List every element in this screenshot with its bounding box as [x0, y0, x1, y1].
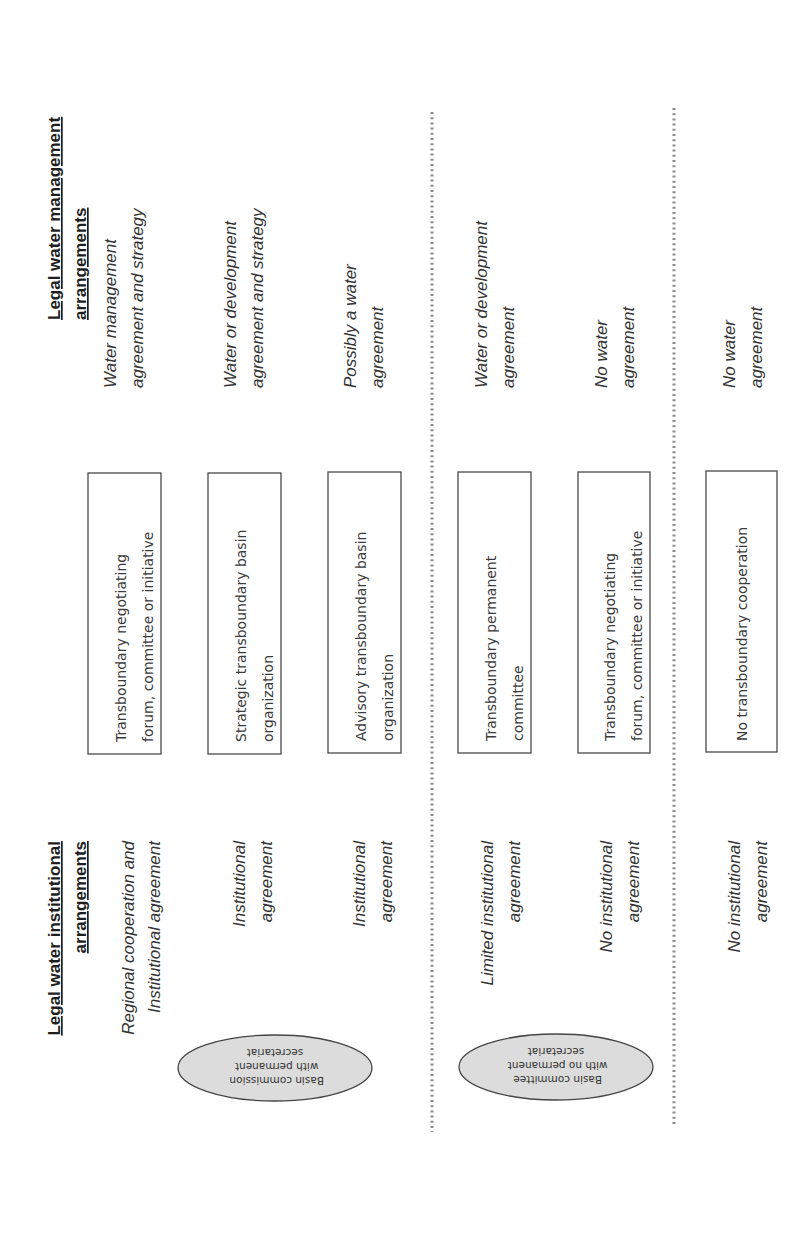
- group-no-cooperation: No water agreement No transboundary coop…: [706, 305, 777, 952]
- header-management: Legal water management arrangements: [45, 117, 90, 320]
- organization-text: committee: [510, 665, 526, 741]
- institutional-text: Institutional agreement: [145, 840, 164, 1013]
- organization-text: forum, committee or initiative: [140, 532, 156, 742]
- row: Water or development agreement and strat…: [208, 207, 281, 927]
- row: Possibly a water agreement Advisory tran…: [328, 263, 401, 927]
- institutional-text: agreement: [752, 840, 771, 923]
- management-text: agreement: [747, 305, 766, 388]
- management-text: agreement and strategy: [128, 207, 147, 388]
- organization-text: Strategic transboundary basin: [233, 530, 249, 742]
- management-text: No water: [592, 319, 611, 388]
- management-text: agreement: [368, 305, 387, 388]
- row: Water management agreement and strategy …: [88, 207, 164, 1035]
- institutional-text: Institutional: [350, 840, 369, 927]
- institutional-text: agreement: [377, 840, 396, 923]
- institutional-text: agreement: [505, 840, 524, 923]
- row: No water agreement No transboundary coop…: [706, 305, 777, 952]
- ellipse-line: Basin committee: [513, 1074, 602, 1086]
- ellipse-line: with permanent: [235, 1061, 318, 1073]
- institutional-text: agreement: [257, 840, 276, 923]
- row: No water agreement Transboundary negotia…: [578, 305, 650, 952]
- organization-text: organization: [380, 654, 396, 741]
- management-text: agreement and strategy: [248, 207, 267, 388]
- basin-commission-ellipse: Basin commission with permanent secretar…: [178, 1035, 372, 1101]
- header-institutional-line2: arrangements: [71, 841, 90, 953]
- diagram-canvas: Legal water management arrangements Lega…: [0, 0, 810, 1250]
- group-basin-committee: Water or development agreement Transboun…: [458, 220, 653, 1100]
- ellipse-line: Basin commission: [229, 1075, 324, 1087]
- organization-text: Advisory transboundary basin: [353, 532, 369, 741]
- organization-text: Transboundary negotiating: [113, 554, 129, 743]
- ellipse-line: with no permanent: [508, 1060, 608, 1072]
- organization-text: No transboundary cooperation: [734, 527, 750, 741]
- management-text: Water or development: [472, 220, 491, 388]
- row: Water or development agreement Transboun…: [458, 220, 531, 986]
- management-text: Water or development: [221, 220, 240, 388]
- institutional-text: No institutional: [725, 840, 744, 953]
- management-text: agreement: [619, 305, 638, 388]
- institutional-text: agreement: [624, 840, 643, 923]
- institutional-text: No institutional: [597, 840, 616, 953]
- institutional-text: Institutional: [230, 840, 249, 927]
- institutional-text: Regional cooperation and: [119, 840, 138, 1034]
- organization-text: organization: [260, 655, 276, 742]
- group-basin-commission: Water management agreement and strategy …: [88, 207, 401, 1101]
- basin-committee-ellipse: Basin committee with no permanent secret…: [459, 1034, 653, 1100]
- header-institutional-line1: Legal water institutional: [45, 841, 64, 1036]
- management-text: Possibly a water: [341, 263, 360, 388]
- institutional-text: Limited institutional: [478, 840, 497, 986]
- organization-text: Transboundary negotiating: [602, 553, 618, 742]
- header-institutional: Legal water institutional arrangements: [45, 841, 90, 1036]
- organization-text: forum, committee or initiative: [629, 531, 645, 741]
- ellipse-line: secretariat: [247, 1047, 304, 1059]
- organization-text: Transboundary permanent: [483, 555, 499, 742]
- header-management-line2: arrangements: [71, 208, 90, 320]
- header-management-line1: Legal water management: [45, 117, 64, 320]
- management-text: No water: [720, 319, 739, 388]
- ellipse-line: secretariat: [528, 1046, 585, 1058]
- management-text: Water management: [101, 238, 120, 388]
- management-text: agreement: [499, 305, 518, 388]
